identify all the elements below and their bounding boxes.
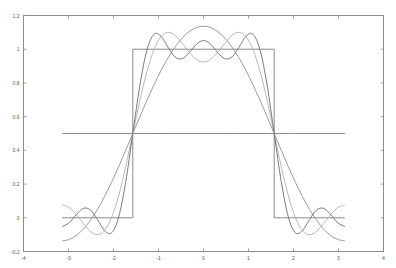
x-tick-label: -2 [111,255,116,261]
x-tick-label: 0 [202,255,205,261]
x-tick-label: 4 [382,255,385,261]
y-tick-label: 0.2 [13,181,20,187]
x-tick-label: 1 [247,255,250,261]
x-tick-label: -1 [156,255,161,261]
y-tick-label: 1.2 [13,13,20,19]
y-tick-label: 0.6 [13,114,20,120]
y-tick-label: -0.2 [11,249,20,255]
x-tick-label: 3 [337,255,340,261]
y-tick-label: 0 [17,215,20,221]
chart-figure: -4-3-2-101234 -0.200.20.40.60.811.2 [0,0,396,268]
y-tick-label: 0.8 [13,80,20,86]
x-tick-label: 2 [292,255,295,261]
x-tick-label: -4 [21,255,26,261]
x-tick-label: -3 [66,255,71,261]
y-tick-label: 0.4 [13,147,20,153]
y-tick-label: 1 [17,46,20,52]
